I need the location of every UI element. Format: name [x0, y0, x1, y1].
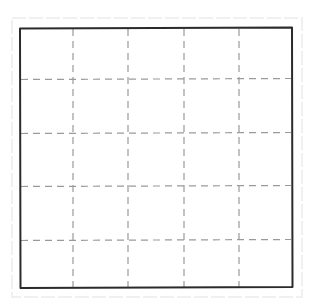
outer-frame [12, 18, 302, 297]
grid-horizontal-line [21, 186, 291, 187]
grid-horizontal-line [21, 240, 291, 241]
grid-horizontal-line [21, 79, 291, 80]
grid-diagram-canvas [0, 0, 315, 305]
grid-horizontal-line [21, 133, 291, 134]
grid-border [20, 28, 293, 289]
grid-lines [21, 29, 291, 287]
